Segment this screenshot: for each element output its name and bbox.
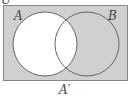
caption-label: A′	[58, 83, 71, 96]
venn-diagram: U A B A′	[0, 0, 131, 96]
universal-label: U	[1, 0, 12, 7]
set-b-label: B	[107, 9, 117, 23]
set-a-label: A	[13, 9, 23, 23]
